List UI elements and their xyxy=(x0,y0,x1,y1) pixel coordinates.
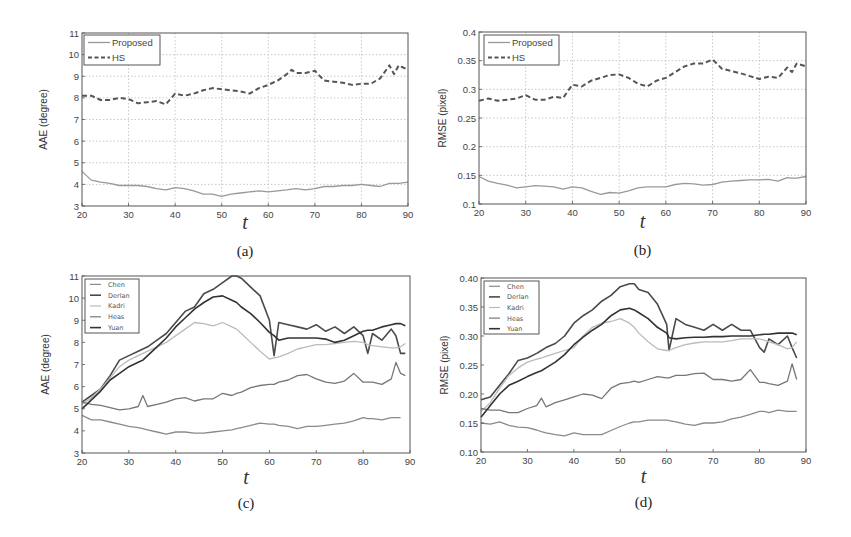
x-tick-label: 30 xyxy=(124,456,135,467)
x-axis-label: t xyxy=(641,465,647,487)
legend-label: Yuan xyxy=(107,324,123,332)
y-tick-label: 3 xyxy=(74,448,79,459)
y-tick-label: 8 xyxy=(74,92,79,103)
x-tick-label: 80 xyxy=(356,209,367,220)
y-tick-label: 0.4 xyxy=(463,27,476,38)
panel-caption: (d) xyxy=(635,494,653,511)
y-tick-label: 0.10 xyxy=(460,447,479,458)
series-line-heas xyxy=(481,364,797,413)
x-tick-label: 50 xyxy=(217,456,228,467)
y-tick-label: 0.3 xyxy=(463,84,476,95)
x-tick-label: 90 xyxy=(801,455,812,466)
legend: ProposedHS xyxy=(484,35,559,65)
y-tick-label: 9 xyxy=(74,315,79,326)
y-tick-label: 5 xyxy=(74,403,79,414)
series-line-heas xyxy=(82,362,405,410)
y-tick-label: 0.1 xyxy=(463,199,476,210)
x-tick-label: 30 xyxy=(522,455,533,466)
x-axis-label: t xyxy=(242,211,248,233)
x-tick-label: 70 xyxy=(311,456,322,467)
x-tick-label: 90 xyxy=(403,209,414,220)
panel-caption: (a) xyxy=(237,243,254,260)
y-tick-label: 0.20 xyxy=(460,389,479,400)
y-tick-label: 0.2 xyxy=(463,141,476,152)
panel-caption: (c) xyxy=(238,495,255,512)
y-tick-label: 0.30 xyxy=(460,331,479,342)
legend-label: Chen xyxy=(507,283,524,291)
x-axis-label: t xyxy=(640,210,646,232)
y-tick-label: 4 xyxy=(74,425,79,436)
y-tick-label: 0.40 xyxy=(460,273,479,284)
x-tick-label: 70 xyxy=(310,209,321,220)
y-tick-label: 0.35 xyxy=(458,55,477,66)
series-line-hs xyxy=(479,60,806,101)
y-tick-label: 0.15 xyxy=(460,418,479,429)
x-tick-label: 50 xyxy=(615,455,626,466)
y-axis-label: RMSE (pixel) xyxy=(439,336,450,395)
x-tick-label: 70 xyxy=(707,207,718,218)
x-tick-label: 40 xyxy=(170,209,181,220)
y-tick-label: 0.35 xyxy=(460,302,479,313)
series-line-proposed xyxy=(479,177,806,195)
series-line-chen xyxy=(82,415,401,434)
x-tick-label: 50 xyxy=(216,209,227,220)
chart-panel-c: 203040506070809034567891011AAE (degree)t… xyxy=(40,271,415,513)
y-tick-label: 7 xyxy=(74,114,79,125)
x-tick-label: 70 xyxy=(708,455,719,466)
y-axis-label: RMSE (pixel) xyxy=(437,89,448,148)
y-tick-label: 8 xyxy=(74,337,79,348)
x-tick-label: 90 xyxy=(405,456,416,467)
x-tick-label: 30 xyxy=(123,209,134,220)
y-tick-label: 3 xyxy=(74,201,79,212)
chart-panel-d: 20304050607080900.100.150.200.250.300.35… xyxy=(439,273,811,512)
chart-panel-b: 20304050607080900.10.150.20.250.30.350.4… xyxy=(437,27,811,260)
x-tick-label: 30 xyxy=(520,207,531,218)
y-tick-label: 0.25 xyxy=(458,113,477,124)
x-tick-label: 90 xyxy=(801,207,812,218)
x-tick-label: 80 xyxy=(754,207,765,218)
x-tick-label: 40 xyxy=(170,456,181,467)
legend: ChenDerlanKadriHeasYuan xyxy=(85,279,139,333)
y-axis-label: AAE (degree) xyxy=(40,334,51,395)
y-tick-label: 9 xyxy=(74,71,79,82)
legend: ProposedHS xyxy=(84,35,160,65)
chart-panel-a: 203040506070809034567891011AAE (degree)t… xyxy=(38,28,413,261)
legend-label: Heas xyxy=(507,315,524,323)
x-tick-label: 80 xyxy=(358,456,369,467)
y-tick-label: 0.25 xyxy=(460,360,479,371)
legend-label: Proposed xyxy=(512,37,553,48)
legend-label: HS xyxy=(512,52,525,63)
panel-caption: (b) xyxy=(634,242,652,259)
legend-label: Heas xyxy=(108,313,125,321)
x-tick-label: 40 xyxy=(567,207,578,218)
legend: ChenDerlanKadriHeasYuan xyxy=(484,281,539,334)
x-axis-label: t xyxy=(243,466,249,488)
x-tick-label: 40 xyxy=(569,455,580,466)
y-tick-label: 10 xyxy=(68,293,79,304)
legend-label: HS xyxy=(112,52,125,63)
figure-canvas: 203040506070809034567891011AAE (degree)t… xyxy=(0,0,851,537)
x-tick-label: 80 xyxy=(754,455,765,466)
legend-label: Proposed xyxy=(112,37,153,48)
x-tick-label: 60 xyxy=(263,209,274,220)
x-tick-label: 50 xyxy=(614,207,625,218)
y-tick-label: 7 xyxy=(74,359,79,370)
series-line-proposed xyxy=(82,171,408,196)
legend-label: Chen xyxy=(108,281,125,289)
y-tick-label: 11 xyxy=(69,28,79,39)
y-tick-label: 6 xyxy=(74,136,79,147)
series-line-chen xyxy=(481,410,797,436)
y-tick-label: 6 xyxy=(74,381,79,392)
legend-label: Yuan xyxy=(506,325,522,333)
x-tick-label: 60 xyxy=(661,455,672,466)
legend-label: Kadri xyxy=(108,302,125,310)
series-line-hs xyxy=(82,65,408,104)
y-tick-label: 0.15 xyxy=(458,170,477,181)
legend-label: Derlan xyxy=(108,292,130,300)
y-tick-label: 10 xyxy=(68,49,79,60)
legend-label: Derlan xyxy=(507,293,529,301)
x-tick-label: 60 xyxy=(264,456,275,467)
x-tick-label: 60 xyxy=(661,207,672,218)
y-tick-label: 11 xyxy=(69,271,79,282)
y-axis-label: AAE (degree) xyxy=(38,89,49,150)
